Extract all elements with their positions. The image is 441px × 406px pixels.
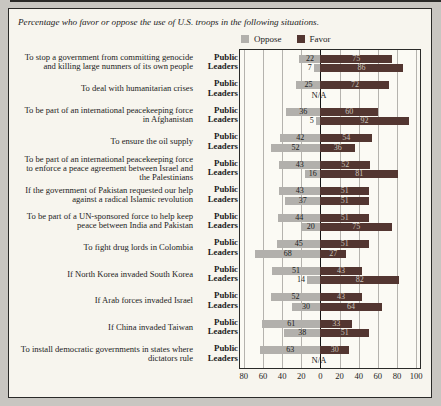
category-row: If Arab forces invaded IsraelPublicLeade…	[16, 288, 238, 315]
public-favor-value: 43	[320, 293, 361, 301]
leaders-favor-value: 92	[320, 117, 408, 125]
leaders-oppose-bar	[314, 64, 321, 72]
axis-tick-label: 100	[410, 371, 423, 381]
public-oppose-value: 51	[272, 267, 321, 275]
leaders-na-label: N/A	[312, 356, 327, 365]
axis-tick-label: 40	[354, 371, 363, 381]
plot-row: 43521681	[240, 156, 420, 183]
leaders-oppose-value: 20	[301, 223, 320, 231]
group-label-leaders: Leaders	[198, 168, 238, 178]
legend: Oppose Favor	[241, 34, 424, 44]
category-label: To fight drug lords in Colombia	[16, 243, 193, 252]
leaders-favor-value: 36	[320, 144, 354, 152]
leaders-oppose-value: 30	[292, 303, 321, 311]
group-label-leaders: Leaders	[198, 274, 238, 284]
plot-row: 42545236	[240, 130, 420, 157]
group-label-leaders: Leaders	[198, 221, 238, 231]
category-label: To install democratic governments in sta…	[16, 345, 193, 363]
group-labels: PublicLeaders	[198, 314, 238, 341]
category-label: If North Korea invaded South Korea	[16, 270, 193, 279]
leaders-favor-value: 51	[320, 197, 369, 205]
plot-row: 2572N/A	[240, 77, 420, 104]
group-labels: PublicLeaders	[198, 102, 238, 129]
leaders-favor-value: 82	[320, 276, 399, 284]
x-axis: 80604020020406080100	[240, 369, 420, 384]
plot-row: 44512075	[240, 209, 420, 236]
category-label: If the government of Pakistan requested …	[16, 186, 193, 204]
legend-oppose-swatch	[241, 35, 249, 43]
leaders-oppose-value: 52	[271, 144, 321, 152]
public-oppose-value: 52	[271, 293, 321, 301]
plot-area: 22757862572N/A36605924254523643521681435…	[239, 49, 421, 369]
leaders-favor-value: 64	[320, 303, 381, 311]
plot-row: 52433064	[240, 289, 420, 316]
axis-tick-label: 80	[240, 371, 249, 381]
group-label-leaders: Leaders	[198, 248, 238, 258]
leaders-favor-value: 86	[320, 64, 402, 72]
public-oppose-value: 43	[279, 187, 320, 195]
leaders-favor-value: 81	[320, 170, 398, 178]
plot-row: 6330N/A	[240, 342, 420, 369]
page-edge-strip	[10, 0, 441, 2]
leaders-na-label: N/A	[312, 91, 327, 100]
group-labels: PublicLeaders	[198, 49, 238, 76]
plot-column: 22757862572N/A36605924254523643521681435…	[239, 49, 423, 384]
group-labels: PublicLeaders	[198, 261, 238, 288]
category-row: To be part of a UN-sponsored force to he…	[16, 208, 238, 235]
leaders-oppose-value: 68	[255, 250, 320, 258]
category-row: To fight drug lords in ColombiaPublicLea…	[16, 235, 238, 262]
public-favor-value: 51	[320, 240, 369, 248]
public-oppose-value: 22	[299, 55, 320, 63]
category-row: To stop a government from committing gen…	[16, 49, 238, 76]
public-oppose-value: 61	[262, 320, 320, 328]
group-label-leaders: Leaders	[198, 115, 238, 125]
group-labels: PublicLeaders	[198, 341, 238, 368]
leaders-oppose-value: 38	[284, 329, 320, 337]
axis-tick-label: 60	[259, 371, 268, 381]
category-row: To be part of an international peacekeep…	[16, 155, 238, 182]
plot-row: 51431482	[240, 262, 420, 289]
category-row: If China invaded TaiwanPublicLeaders	[16, 314, 238, 341]
group-label-leaders: Leaders	[198, 89, 238, 99]
category-label: To be part of a UN-sponsored force to he…	[16, 212, 193, 230]
axis-tick-label: 80	[393, 371, 402, 381]
category-row: If North Korea invaded South KoreaPublic…	[16, 261, 238, 288]
chart-title: Percentage who favor or oppose the use o…	[18, 17, 424, 28]
group-label-leaders: Leaders	[198, 142, 238, 152]
public-oppose-value: 44	[278, 214, 320, 222]
category-label: If China invaded Taiwan	[16, 323, 193, 332]
group-labels: PublicLeaders	[198, 155, 238, 182]
axis-tick-label: 20	[335, 371, 344, 381]
legend-oppose-label: Oppose	[254, 34, 282, 44]
legend-favor-label: Favor	[310, 34, 331, 44]
group-label-leaders: Leaders	[198, 62, 238, 72]
group-label-leaders: Leaders	[198, 301, 238, 311]
plot-row: 61333851	[240, 315, 420, 342]
axis-tick-label: 0	[318, 371, 322, 381]
public-favor-value: 33	[320, 320, 352, 328]
leaders-favor-value: 75	[320, 223, 392, 231]
public-oppose-value: 63	[260, 346, 320, 354]
public-favor-value: 72	[320, 81, 389, 89]
group-labels: PublicLeaders	[198, 182, 238, 209]
category-row: To be part of an international peacekeep…	[16, 102, 238, 129]
category-label: If Arab forces invaded Israel	[16, 296, 193, 305]
plot-row: 45516827	[240, 236, 420, 263]
category-row: If the government of Pakistan requested …	[16, 182, 238, 209]
axis-tick-label: 40	[278, 371, 287, 381]
category-row: To deal with humanitarian crisesPublicLe…	[16, 76, 238, 103]
public-favor-value: 54	[320, 134, 372, 142]
leaders-oppose-value: 16	[305, 170, 320, 178]
group-label-leaders: Leaders	[198, 327, 238, 337]
group-label-leaders: Leaders	[198, 195, 238, 205]
public-favor-value: 52	[320, 161, 370, 169]
category-row: To install democratic governments in sta…	[16, 341, 238, 368]
leaders-favor-value: 51	[320, 329, 369, 337]
category-label: To ensure the oil supply	[16, 137, 193, 146]
group-labels: PublicLeaders	[198, 208, 238, 235]
public-favor-value: 60	[320, 108, 377, 116]
public-oppose-value: 25	[296, 81, 320, 89]
chart: To stop a government from committing gen…	[16, 49, 424, 384]
group-labels: PublicLeaders	[198, 235, 238, 262]
group-labels: PublicLeaders	[198, 76, 238, 103]
